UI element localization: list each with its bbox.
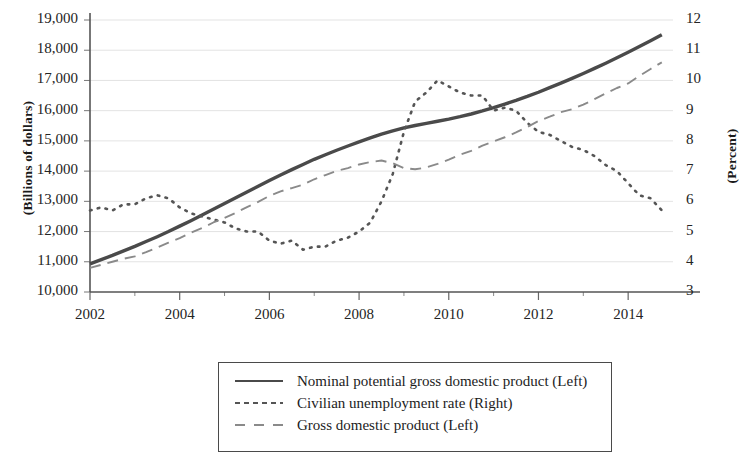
legend-item-label: Nominal potential gross domestic product… [297, 373, 587, 390]
legend-line-swatch [233, 418, 285, 432]
x-tick-label: 2014 [598, 306, 658, 323]
axis-lines [90, 13, 700, 292]
right-tick-label: 7 [686, 161, 726, 178]
left-tick-label: 15,000 [6, 131, 78, 148]
right-tick-label: 9 [686, 101, 726, 118]
x-tick-label: 2006 [239, 306, 299, 323]
right-tick-label: 5 [686, 222, 726, 239]
left-tick-label: 10,000 [6, 282, 78, 299]
chart-legend: Nominal potential gross domestic product… [218, 362, 612, 452]
right-tick-label: 12 [686, 10, 726, 27]
right-tick-label: 8 [686, 131, 726, 148]
legend-item: Gross domestic product (Left) [219, 414, 611, 436]
right-tick-label: 6 [686, 191, 726, 208]
left-tick-label: 17,000 [6, 70, 78, 87]
left-tick-label: 12,000 [6, 222, 78, 239]
right-tick-label: 4 [686, 252, 726, 269]
left-tick-label: 16,000 [6, 101, 78, 118]
left-tick-label: 11,000 [6, 252, 78, 269]
x-tick-label: 2010 [419, 306, 479, 323]
legend-item-label: Civilian unemployment rate (Right) [297, 395, 512, 412]
x-tick-label: 2002 [60, 306, 120, 323]
legend-item-label: Gross domestic product (Left) [297, 417, 478, 434]
axis-ticks [84, 20, 628, 300]
left-tick-label: 19,000 [6, 10, 78, 27]
legend-item: Nominal potential gross domestic product… [219, 370, 611, 392]
left-tick-label: 14,000 [6, 161, 78, 178]
right-tick-label: 10 [686, 70, 726, 87]
left-tick-label: 18,000 [6, 40, 78, 57]
x-tick-label: 2008 [329, 306, 389, 323]
data-series-layer [90, 35, 662, 268]
right-tick-label: 11 [686, 40, 726, 57]
legend-line-swatch [233, 396, 285, 410]
x-tick-label: 2012 [508, 306, 568, 323]
legend-item: Civilian unemployment rate (Right) [219, 392, 611, 414]
left-tick-label: 13,000 [6, 191, 78, 208]
series-line-1 [90, 35, 662, 264]
series-line-3 [90, 62, 662, 268]
series-line-2 [90, 80, 662, 249]
right-tick-label: 3 [686, 282, 726, 299]
legend-line-swatch [233, 374, 285, 388]
x-tick-label: 2004 [150, 306, 210, 323]
